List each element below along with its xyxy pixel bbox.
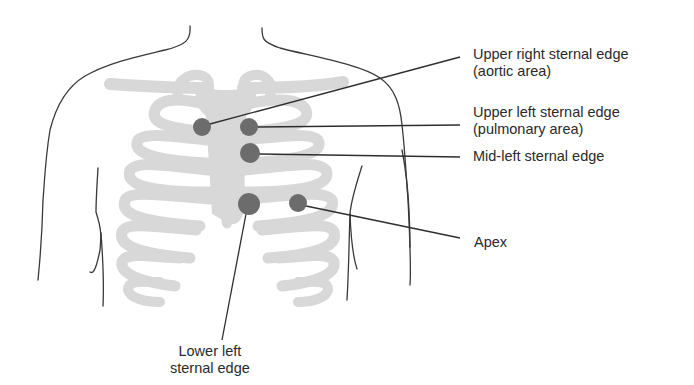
pulmonary-site-marker xyxy=(240,118,258,136)
lower-left-label-line1: Lower left xyxy=(170,343,250,360)
apex-site-marker xyxy=(289,194,307,212)
pulmonary-label-line1: Upper left sternal edge xyxy=(473,104,620,121)
aortic-label: Upper right sternal edge (aortic area) xyxy=(473,46,629,80)
apex-label: Apex xyxy=(474,234,507,251)
auscultation-diagram: Upper right sternal edge (aortic area) U… xyxy=(0,0,694,385)
lower-left-label: Lower left sternal edge xyxy=(170,343,250,377)
apex-label-line1: Apex xyxy=(474,234,507,251)
rib-cage xyxy=(110,75,343,302)
mid-left-site-marker xyxy=(240,143,260,163)
mid-left-label: Mid-left sternal edge xyxy=(473,148,604,165)
aortic-site-marker xyxy=(193,118,211,136)
aortic-label-line2: (aortic area) xyxy=(473,63,629,80)
pulmonary-label-line2: (pulmonary area) xyxy=(473,121,620,138)
lower-left-site-marker xyxy=(238,193,260,215)
lower-left-label-line2: sternal edge xyxy=(170,360,250,377)
aortic-label-line1: Upper right sternal edge xyxy=(473,46,629,63)
mid-left-label-line1: Mid-left sternal edge xyxy=(473,148,604,165)
pulmonary-label: Upper left sternal edge (pulmonary area) xyxy=(473,104,620,138)
